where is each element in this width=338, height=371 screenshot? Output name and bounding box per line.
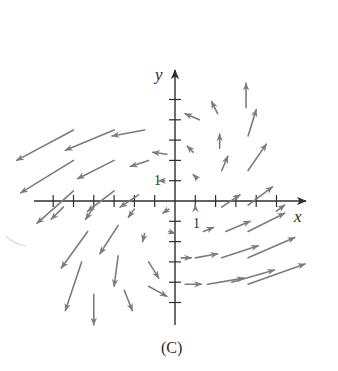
vector-arrow	[114, 256, 118, 286]
vector-field-figure: y x 1 1 (C)	[0, 0, 338, 371]
vector-arrow	[17, 130, 74, 160]
vector-arrow	[65, 262, 81, 311]
vector-arrow	[185, 114, 199, 120]
vector-arrow	[248, 110, 256, 136]
vector-arrow	[21, 160, 74, 192]
vector-arrow	[203, 227, 213, 231]
vector-arrow	[169, 231, 175, 233]
vector-arrow	[100, 225, 118, 253]
vector-arrow	[212, 102, 218, 114]
vector-arrow	[149, 262, 159, 278]
vector-arrow	[226, 221, 250, 231]
vector-arrow	[248, 238, 295, 258]
vector-arrow	[248, 187, 272, 205]
vector-arrow	[149, 286, 167, 296]
vector-arrow	[143, 233, 145, 241]
vector-arrows	[17, 83, 305, 325]
vector-arrow	[65, 130, 114, 150]
figure-caption: (C)	[161, 339, 182, 357]
vector-arrow	[130, 160, 148, 166]
y-axis-label: y	[153, 65, 163, 84]
scan-artifact-curve	[6, 236, 26, 246]
vector-arrow	[37, 191, 74, 223]
vector-arrow	[207, 278, 244, 284]
vector-arrow	[153, 152, 167, 154]
axes: y x 1 1	[34, 65, 306, 325]
vector-arrow	[277, 205, 285, 211]
vector-arrow	[78, 160, 115, 178]
vector-arrow	[128, 209, 134, 217]
vector-arrow	[193, 175, 197, 179]
vector-arrow	[61, 231, 87, 268]
x-unit-label: 1	[193, 216, 200, 231]
vector-arrow	[248, 213, 285, 231]
vector-arrow	[222, 156, 228, 170]
vector-arrow	[248, 144, 266, 170]
vector-arrow	[195, 254, 217, 258]
x-axis-label: x	[293, 207, 302, 226]
vector-arrow	[232, 270, 275, 282]
vector-arrow	[124, 290, 132, 310]
vector-arrow	[163, 209, 169, 213]
vector-arrow	[248, 264, 305, 284]
vector-arrow	[187, 146, 193, 152]
vector-arrow	[112, 130, 144, 136]
